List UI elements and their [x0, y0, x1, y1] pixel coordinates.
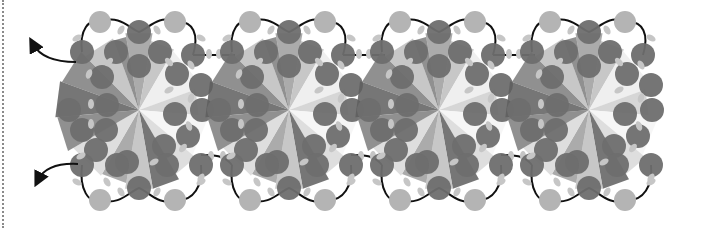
arrow-upper-left-icon: [33, 44, 76, 62]
seed-bead: [102, 176, 112, 188]
dark-bead: [277, 20, 301, 44]
seed-bead: [206, 49, 212, 59]
seed-bead: [645, 33, 657, 43]
light-bead: [314, 189, 336, 211]
dark-bead: [127, 54, 151, 78]
dark-bead: [277, 176, 301, 200]
seed-bead: [195, 33, 207, 43]
dark-bead: [339, 153, 363, 177]
dark-bead: [555, 153, 579, 177]
light-bead: [89, 189, 111, 211]
dark-bead: [370, 40, 394, 64]
dark-bead: [220, 40, 244, 64]
dark-bead: [315, 62, 339, 86]
light-bead: [539, 11, 561, 33]
seed-bead: [238, 119, 244, 129]
dark-bead: [615, 62, 639, 86]
seed-bead: [402, 176, 412, 188]
dark-bead: [395, 93, 419, 117]
light-bead: [389, 189, 411, 211]
seed-bead: [252, 176, 262, 188]
seed-bead: [388, 99, 394, 109]
seed-bead: [538, 99, 544, 109]
seed-bead: [356, 49, 362, 59]
light-bead: [614, 189, 636, 211]
seed-bead: [566, 24, 576, 36]
light-bead: [89, 11, 111, 33]
dark-bead: [545, 93, 569, 117]
light-bead: [164, 189, 186, 211]
dark-bead: [613, 102, 637, 126]
motif-group: [55, 11, 664, 211]
dark-bead: [245, 93, 269, 117]
dark-bead: [357, 98, 381, 122]
dark-bead: [465, 62, 489, 86]
dark-bead: [189, 153, 213, 177]
dark-bead: [207, 98, 231, 122]
dark-bead: [90, 65, 114, 89]
dark-bead: [155, 153, 179, 177]
dark-bead: [57, 98, 81, 122]
seed-bead: [506, 49, 512, 59]
dark-bead: [70, 40, 94, 64]
dark-bead: [127, 20, 151, 44]
dark-bead: [240, 65, 264, 89]
dark-bead: [105, 153, 129, 177]
seed-bead: [345, 33, 357, 43]
dark-bead: [605, 153, 629, 177]
dark-bead: [507, 98, 531, 122]
dark-bead: [255, 153, 279, 177]
light-bead: [614, 11, 636, 33]
dark-bead: [520, 40, 544, 64]
dark-bead: [577, 54, 601, 78]
light-bead: [239, 11, 261, 33]
light-bead: [464, 189, 486, 211]
dark-bead: [463, 102, 487, 126]
light-bead: [164, 11, 186, 33]
dark-bead: [390, 65, 414, 89]
light-bead: [539, 189, 561, 211]
seed-bead: [495, 33, 507, 43]
dark-bead: [427, 20, 451, 44]
seed-bead: [388, 119, 394, 129]
dark-bead: [313, 102, 337, 126]
motif-4: [505, 11, 664, 211]
light-bead: [314, 11, 336, 33]
seed-bead: [538, 119, 544, 129]
seed-bead: [552, 176, 562, 188]
dark-bead: [277, 54, 301, 78]
light-bead: [464, 11, 486, 33]
seed-bead: [266, 24, 276, 36]
dark-bead: [127, 176, 151, 200]
seed-bead: [452, 24, 462, 36]
dark-bead: [640, 98, 664, 122]
dark-bead: [577, 176, 601, 200]
dark-bead: [639, 153, 663, 177]
seed-bead: [416, 24, 426, 36]
dark-bead: [489, 153, 513, 177]
dark-bead: [95, 93, 119, 117]
seed-bead: [88, 119, 94, 129]
seed-bead: [238, 99, 244, 109]
dark-bead: [427, 176, 451, 200]
dark-bead: [540, 65, 564, 89]
light-bead: [239, 189, 261, 211]
seed-bead: [602, 24, 612, 36]
dark-bead: [577, 20, 601, 44]
seed-bead: [152, 24, 162, 36]
beading-diagram: [0, 0, 705, 228]
light-bead: [389, 11, 411, 33]
dark-bead: [427, 54, 451, 78]
dark-bead: [163, 102, 187, 126]
dark-bead: [165, 62, 189, 86]
seed-bead: [116, 24, 126, 36]
dark-bead: [455, 153, 479, 177]
dark-bead: [305, 153, 329, 177]
seed-bead: [88, 99, 94, 109]
dark-bead: [405, 153, 429, 177]
seed-bead: [302, 24, 312, 36]
